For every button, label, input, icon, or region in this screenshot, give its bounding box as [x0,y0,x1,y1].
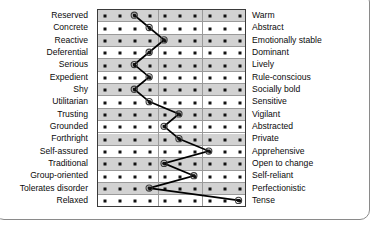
scale-dot[interactable] [178,188,181,191]
scale-dot[interactable] [178,101,181,104]
scale-dot[interactable] [134,15,137,18]
scale-dot[interactable] [164,126,167,129]
scale-dot[interactable] [238,200,241,203]
scale-dot[interactable] [104,151,107,154]
scale-dot[interactable] [223,39,226,42]
scale-dot[interactable] [208,200,211,203]
scale-dot[interactable] [164,27,167,30]
scale-dot[interactable] [178,89,181,92]
scale-dot[interactable] [223,175,226,178]
scale-dot[interactable] [104,64,107,67]
scale-dot[interactable] [119,188,122,191]
scale-dot[interactable] [134,138,137,141]
scale-dot[interactable] [223,27,226,30]
scale-dot[interactable] [238,52,241,55]
scale-dot[interactable] [238,126,241,129]
scale-dot[interactable] [193,39,196,42]
scale-dot[interactable] [104,138,107,141]
scale-dot[interactable] [223,52,226,55]
scale-dot[interactable] [208,113,211,116]
scale-dot[interactable] [178,163,181,166]
scale-dot[interactable] [134,76,137,79]
scale-dot[interactable] [164,76,167,79]
scale-dot[interactable] [223,64,226,67]
scale-dot[interactable] [164,89,167,92]
scale-dot[interactable] [193,163,196,166]
scale-dot[interactable] [238,27,241,30]
scale-dot[interactable] [178,64,181,67]
scale-dot[interactable] [238,113,241,116]
scale-dot[interactable] [223,138,226,141]
scale-dot[interactable] [134,163,137,166]
scale-dot[interactable] [164,188,167,191]
scale-dot[interactable] [208,89,211,92]
scale-dot[interactable] [208,27,211,30]
scale-dot[interactable] [149,188,152,191]
scale-dot[interactable] [238,64,241,67]
scale-dot[interactable] [149,39,152,42]
scale-dot[interactable] [193,27,196,30]
scale-dot[interactable] [119,101,122,104]
scale-dot[interactable] [104,126,107,129]
scale-dot[interactable] [134,200,137,203]
scale-dot[interactable] [134,27,137,30]
scale-dot[interactable] [119,27,122,30]
scale-dot[interactable] [104,200,107,203]
scale-dot[interactable] [134,64,137,67]
scale-dot[interactable] [164,64,167,67]
scale-dot[interactable] [223,163,226,166]
scale-dot[interactable] [149,15,152,18]
scale-dot[interactable] [178,27,181,30]
scale-dot[interactable] [134,113,137,116]
scale-dot[interactable] [238,76,241,79]
scale-dot[interactable] [149,151,152,154]
scale-dot[interactable] [208,52,211,55]
scale-dot[interactable] [223,151,226,154]
scale-dot[interactable] [134,175,137,178]
scale-dot[interactable] [119,175,122,178]
scale-dot[interactable] [149,89,152,92]
scale-dot[interactable] [208,151,211,154]
scale-dot[interactable] [193,64,196,67]
scale-dot[interactable] [208,188,211,191]
scale-dot[interactable] [193,15,196,18]
scale-dot[interactable] [178,151,181,154]
scale-dot[interactable] [223,113,226,116]
scale-dot[interactable] [223,126,226,129]
scale-dot[interactable] [193,151,196,154]
scale-dot[interactable] [164,113,167,116]
scale-dot[interactable] [134,151,137,154]
scale-dot[interactable] [134,188,137,191]
scale-dot[interactable] [193,76,196,79]
scale-dot[interactable] [149,27,152,30]
scale-dot[interactable] [134,89,137,92]
scale-dot[interactable] [208,15,211,18]
scale-dot[interactable] [193,101,196,104]
scale-dot[interactable] [119,89,122,92]
scale-dot[interactable] [104,52,107,55]
scale-dot[interactable] [149,126,152,129]
scale-dot[interactable] [134,101,137,104]
scale-dot[interactable] [119,163,122,166]
scale-dot[interactable] [164,101,167,104]
scale-dot[interactable] [208,163,211,166]
scale-dot[interactable] [119,126,122,129]
scale-dot[interactable] [104,89,107,92]
scale-dot[interactable] [149,52,152,55]
scale-dot[interactable] [208,76,211,79]
scale-dot[interactable] [193,126,196,129]
scale-dot[interactable] [208,39,211,42]
scale-dot[interactable] [208,138,211,141]
scale-dot[interactable] [149,163,152,166]
scale-dot[interactable] [119,151,122,154]
scale-dot[interactable] [193,175,196,178]
scale-dot[interactable] [104,101,107,104]
scale-dot[interactable] [223,15,226,18]
scale-dot[interactable] [193,52,196,55]
scale-dot[interactable] [238,175,241,178]
scale-dot[interactable] [238,39,241,42]
scale-dot[interactable] [164,52,167,55]
scale-dot[interactable] [208,101,211,104]
scale-dot[interactable] [119,138,122,141]
scale-dot[interactable] [178,138,181,141]
